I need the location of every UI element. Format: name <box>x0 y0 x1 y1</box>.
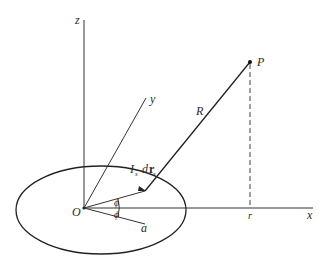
angle-upper-label: ϕ <box>114 197 119 208</box>
origin-label: O <box>72 205 81 219</box>
y-axis-label: y <box>149 92 156 106</box>
radial-distance-label: r <box>248 210 252 221</box>
z-axis-label: z <box>74 13 80 27</box>
x-axis-label: x <box>306 208 313 222</box>
svg-text:d: d <box>142 162 149 176</box>
current-loop-ellipse <box>16 166 186 254</box>
distance-label-R: R <box>195 104 204 118</box>
svg-text:s: s <box>135 170 138 178</box>
svg-text:s: s <box>153 170 156 178</box>
y-axis <box>84 98 146 208</box>
angle-lower-label: ϕ <box>114 209 119 220</box>
distance-line-R <box>145 62 250 191</box>
current-element-label: I s d r s <box>129 162 156 178</box>
point-P-label: P <box>256 55 265 69</box>
radius-label: a <box>141 221 147 235</box>
point-P-dot <box>248 60 252 64</box>
current-loop-diagram: z y x O ϕ ϕ a R P r I s d r s <box>0 0 328 262</box>
